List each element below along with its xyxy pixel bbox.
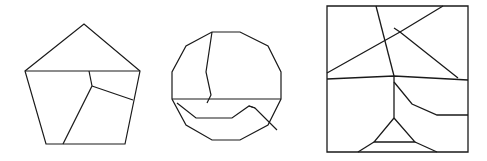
geometric-figures-canvas (0, 0, 487, 161)
